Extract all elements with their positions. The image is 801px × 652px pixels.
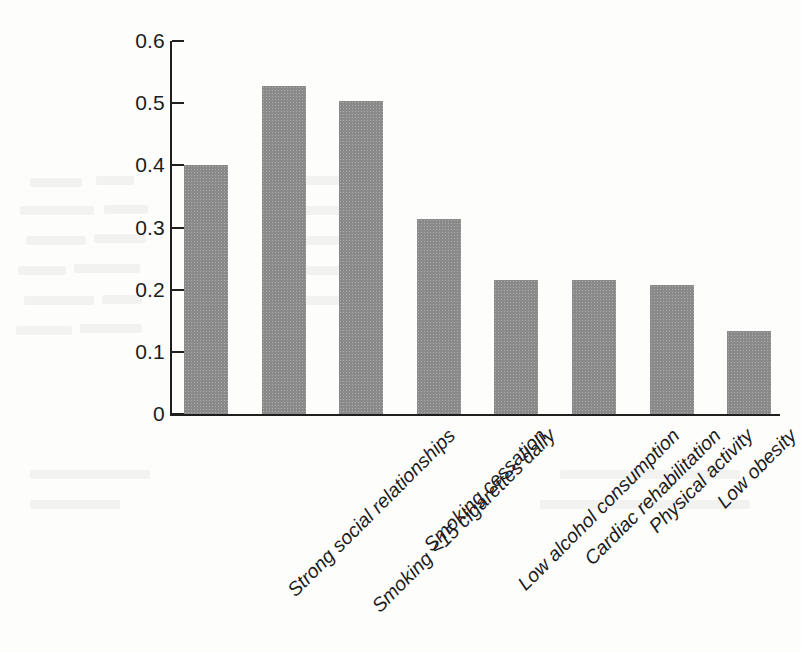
bar[interactable] bbox=[339, 101, 383, 414]
bar[interactable] bbox=[650, 285, 694, 414]
y-axis-tick bbox=[172, 40, 184, 42]
y-axis-tick-labels: 00.10.20.30.40.50.6 bbox=[0, 41, 165, 414]
y-axis-tick bbox=[172, 413, 184, 415]
y-axis-tick-label: 0.5 bbox=[135, 91, 165, 115]
bar-chart-figure: 00.10.20.30.40.50.6 Strong social relati… bbox=[0, 0, 801, 652]
y-axis-tick-label: 0.3 bbox=[135, 216, 165, 240]
y-axis-tick-label: 0.6 bbox=[135, 29, 165, 53]
bar[interactable] bbox=[184, 165, 228, 414]
y-axis-tick bbox=[172, 102, 184, 104]
x-axis-category-label[interactable]: Strong social relationships bbox=[283, 424, 460, 601]
y-axis-tick bbox=[172, 351, 184, 353]
y-axis-tick-label: 0.4 bbox=[135, 153, 165, 177]
plot-area bbox=[170, 41, 780, 414]
y-axis-tick bbox=[172, 289, 184, 291]
bar[interactable] bbox=[417, 219, 461, 414]
y-axis-tick-label: 0.1 bbox=[135, 340, 165, 364]
bar[interactable] bbox=[262, 86, 306, 414]
x-axis-line bbox=[170, 414, 780, 416]
bar[interactable] bbox=[572, 280, 616, 414]
y-axis-tick bbox=[172, 227, 184, 229]
bar[interactable] bbox=[727, 331, 771, 414]
y-axis-tick-label: 0 bbox=[153, 402, 165, 426]
y-axis-tick-label: 0.2 bbox=[135, 278, 165, 302]
bar[interactable] bbox=[494, 280, 538, 414]
y-axis-tick bbox=[172, 164, 184, 166]
